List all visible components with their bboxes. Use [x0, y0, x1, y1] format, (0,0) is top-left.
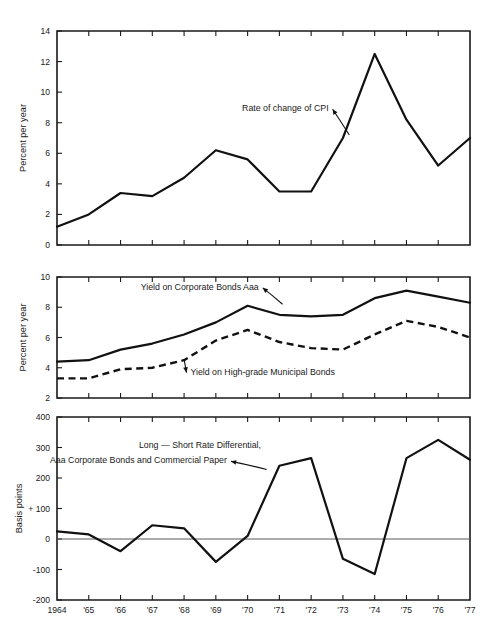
y-tick-label: 10 — [40, 272, 50, 282]
y-axis-title: Basis points — [14, 483, 24, 533]
y-tick-label: 12 — [40, 57, 50, 67]
x-tick-label: '66 — [115, 605, 126, 615]
x-tick-label: '69 — [210, 605, 221, 615]
x-tick-label: '65 — [83, 605, 94, 615]
y-tick-label: 2 — [45, 393, 50, 403]
y-tick-label: -200 — [33, 595, 50, 605]
y-axis-title: Percent per year — [18, 304, 28, 372]
y-tick-label: 0 — [45, 240, 50, 250]
y-axis-title: Percent per year — [18, 104, 28, 172]
x-tick-label: '77 — [464, 605, 475, 615]
y-tick-label: 400 — [36, 412, 51, 422]
y-tick-label: 8 — [45, 118, 50, 128]
y-tick-label: 10 — [40, 87, 50, 97]
x-tick-label: '74 — [369, 605, 380, 615]
chart-canvas: 02468101214Rate of change of CPIPercent … — [0, 0, 500, 638]
x-tick-label: '67 — [147, 605, 158, 615]
series-annotation-label: Yield on High-grade Municipal Bonds — [190, 367, 335, 377]
series-annotation-label: Yield on Corporate Bonds Aaa — [141, 282, 259, 292]
y-tick-label: 2 — [45, 209, 50, 219]
y-tick-label: 6 — [45, 148, 50, 158]
y-tick-label: -100 — [33, 565, 50, 575]
y-tick-label: 6 — [45, 333, 50, 343]
y-tick-label: 0 — [45, 534, 50, 544]
y-tick-label: 300 — [36, 443, 51, 453]
series-annotation-label: Rate of change of CPI — [242, 103, 329, 113]
x-tick-label: '72 — [306, 605, 317, 615]
y-tick-label: 200 — [36, 473, 51, 483]
y-tick-label: + 100 — [28, 504, 50, 514]
y-tick-label: 4 — [45, 363, 50, 373]
x-tick-label: '76 — [433, 605, 444, 615]
x-tick-label: '70 — [242, 605, 253, 615]
figure-background — [0, 0, 500, 638]
series-annotation-label: Aaa Corporate Bonds and Commercial Paper — [50, 455, 227, 465]
x-tick-label: '68 — [178, 605, 189, 615]
x-tick-label: '75 — [401, 605, 412, 615]
y-tick-label: 14 — [40, 26, 50, 36]
x-tick-label: 1964 — [47, 605, 66, 615]
y-tick-label: 8 — [45, 302, 50, 312]
x-tick-label: '73 — [337, 605, 348, 615]
y-tick-label: 4 — [45, 179, 50, 189]
interest-rate-figure: 02468101214Rate of change of CPIPercent … — [0, 0, 500, 638]
x-tick-label: '71 — [274, 605, 285, 615]
series-annotation-label: Long — Short Rate Differential, — [139, 440, 261, 450]
